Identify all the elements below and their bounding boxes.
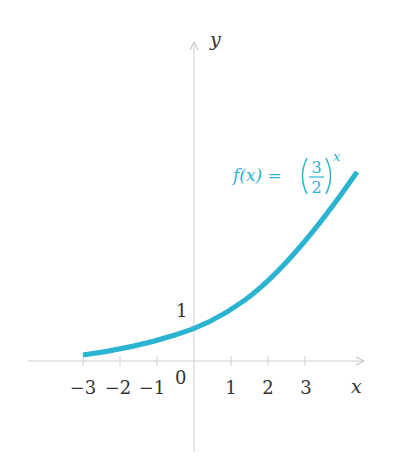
y-axis-label: y (209, 28, 221, 50)
fraction-numerator: 3 (311, 158, 321, 177)
x-tick-label: −3 (70, 377, 97, 398)
left-paren (303, 158, 308, 194)
x-tick-label: 3 (300, 377, 311, 398)
x-axis-label: x (351, 375, 362, 397)
x-tick-label: −2 (105, 377, 132, 398)
x-tick-label: 2 (262, 377, 273, 398)
function-label: f(x) = 3 2 x (231, 149, 341, 197)
curve-rendered (83, 172, 357, 355)
x-tick-label: 1 (225, 377, 236, 398)
y-tick-label-1: 1 (176, 300, 187, 321)
origin-label: 0 (175, 367, 186, 388)
exponential-chart: y x 0 1 −3 −2 −1 1 2 3 f(x) = 3 2 x (0, 0, 395, 463)
right-paren (326, 158, 331, 194)
exponent: x (333, 149, 341, 164)
x-tick-label: −1 (139, 377, 166, 398)
fraction-denominator: 2 (311, 178, 321, 197)
function-name: f(x) = (231, 165, 282, 185)
